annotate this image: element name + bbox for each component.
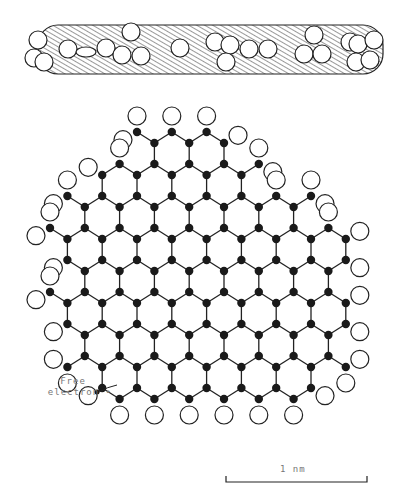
- particle-circle: [29, 31, 47, 49]
- carbon-atom: [272, 299, 280, 307]
- carbon-atom: [289, 203, 297, 211]
- hydrogen-atom: [44, 323, 62, 341]
- carbon-atom: [133, 299, 141, 307]
- particle-circle: [97, 39, 115, 57]
- carbon-atom: [307, 384, 315, 392]
- carbon-atom: [202, 171, 210, 179]
- carbon-atom: [307, 235, 315, 243]
- carbon-atom: [289, 224, 297, 232]
- carbon-atom: [81, 288, 89, 296]
- particle-circle: [349, 35, 367, 53]
- carbon-atom: [168, 235, 176, 243]
- carbon-atom: [168, 128, 176, 136]
- carbon-atom: [150, 288, 158, 296]
- carbon-atom: [220, 224, 228, 232]
- carbon-atom: [342, 320, 350, 328]
- hydrogen-atom: [58, 171, 76, 189]
- carbon-atom: [133, 235, 141, 243]
- carbon-atom: [289, 288, 297, 296]
- carbon-atom: [324, 352, 332, 360]
- carbon-atom: [98, 299, 106, 307]
- carbon-atom: [324, 331, 332, 339]
- free-electron-label-line1: Free: [42, 376, 112, 387]
- carbon-atom: [185, 352, 193, 360]
- carbon-atom: [324, 288, 332, 296]
- carbon-atom: [272, 192, 280, 200]
- hydrogen-atom: [111, 139, 129, 157]
- carbon-atom: [220, 352, 228, 360]
- carbon-atom: [46, 288, 54, 296]
- carbon-atom: [133, 363, 141, 371]
- hydrogen-atom: [285, 406, 303, 424]
- hydrogen-atom: [351, 286, 369, 304]
- carbon-atom: [98, 256, 106, 264]
- carbon-atom: [115, 395, 123, 403]
- carbon-atom: [115, 331, 123, 339]
- carbon-atom: [168, 299, 176, 307]
- hydrogen-atom: [215, 406, 233, 424]
- hydrogen-atom: [351, 323, 369, 341]
- carbon-atom: [307, 299, 315, 307]
- carbon-atom: [202, 363, 210, 371]
- carbon-atom: [237, 235, 245, 243]
- carbon-atom: [202, 235, 210, 243]
- hydrogen-atom: [44, 350, 62, 368]
- carbon-atom: [185, 395, 193, 403]
- carbon-atom: [237, 299, 245, 307]
- scale-bar: [226, 476, 367, 482]
- carbon-atom: [63, 256, 71, 264]
- carbon-atom: [115, 267, 123, 275]
- carbon-atom: [133, 256, 141, 264]
- carbon-atom: [220, 331, 228, 339]
- hydrogen-atom: [319, 203, 337, 221]
- particle-circle: [305, 26, 323, 44]
- carbon-atom: [81, 352, 89, 360]
- hydrogen-atom: [41, 267, 59, 285]
- carbon-atom: [324, 267, 332, 275]
- carbon-atom: [255, 331, 263, 339]
- carbon-atom: [255, 352, 263, 360]
- carbon-atom: [220, 395, 228, 403]
- hydrogen-atom: [163, 107, 181, 125]
- carbon-atom: [255, 288, 263, 296]
- hydrogen-atom: [316, 387, 334, 405]
- carbon-atom: [168, 363, 176, 371]
- carbon-atom: [202, 384, 210, 392]
- particle-circle: [259, 40, 277, 58]
- carbon-atom: [168, 192, 176, 200]
- carbon-atom: [255, 395, 263, 403]
- carbon-atom: [150, 267, 158, 275]
- hydrogen-atom: [351, 350, 369, 368]
- hydrogen-atom: [302, 171, 320, 189]
- carbon-atom: [150, 331, 158, 339]
- carbon-atom: [115, 160, 123, 168]
- soot-particle: [25, 23, 383, 74]
- carbon-atom: [342, 299, 350, 307]
- carbon-atom: [220, 288, 228, 296]
- hydrogen-atom: [250, 139, 268, 157]
- carbon-atom: [237, 363, 245, 371]
- carbon-atom: [272, 256, 280, 264]
- carbon-atom: [289, 267, 297, 275]
- hydrogen-atom: [145, 406, 163, 424]
- hydrogen-atom: [111, 406, 129, 424]
- carbon-atom: [98, 171, 106, 179]
- carbon-atom: [115, 352, 123, 360]
- carbon-atom: [81, 331, 89, 339]
- carbon-atom: [98, 363, 106, 371]
- carbon-atom: [255, 160, 263, 168]
- carbon-atom: [133, 320, 141, 328]
- scale-label: 1 nm: [280, 464, 306, 475]
- carbon-atom: [150, 352, 158, 360]
- hydrogen-atom: [267, 171, 285, 189]
- particle-circle: [217, 53, 235, 71]
- free-electron-label-line2: electron •: [42, 387, 112, 398]
- particle-circle: [59, 40, 77, 58]
- carbon-atom: [63, 363, 71, 371]
- carbon-atom: [98, 320, 106, 328]
- carbon-atom: [307, 256, 315, 264]
- carbon-atom: [202, 320, 210, 328]
- carbon-atom: [133, 192, 141, 200]
- carbon-atom: [150, 203, 158, 211]
- carbon-atom: [272, 235, 280, 243]
